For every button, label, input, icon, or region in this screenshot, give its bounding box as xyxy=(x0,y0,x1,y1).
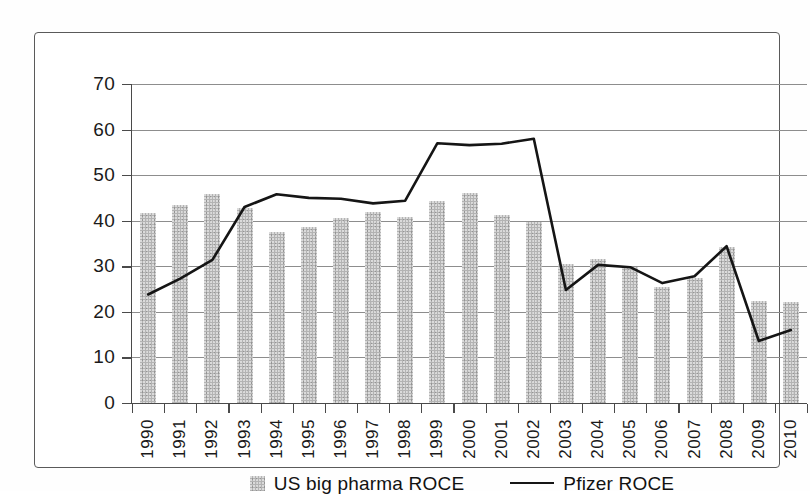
y-tick-label-0: 0 xyxy=(63,393,115,412)
x-axis-label-1996: 1996 xyxy=(332,419,349,459)
y-tick-mark-70 xyxy=(122,84,131,85)
x-tick-mark-2 xyxy=(196,404,197,413)
x-axis-label-1998: 1998 xyxy=(396,419,413,459)
x-axis-label-1994: 1994 xyxy=(268,419,285,459)
x-axis-label-2006: 2006 xyxy=(653,419,670,459)
pfizer-roce-polyline xyxy=(148,139,791,341)
x-tick-mark-0 xyxy=(132,404,133,413)
plot-area xyxy=(132,84,807,403)
x-tick-mark-1 xyxy=(164,404,165,413)
x-tick-mark-5 xyxy=(293,404,294,413)
x-tick-mark-15 xyxy=(614,404,615,413)
x-tick-mark-12 xyxy=(518,404,519,413)
chart-frame: 010203040506070 199019911992199319941995… xyxy=(34,32,780,468)
legend-item-us-big-pharma-roce: US big pharma ROCE xyxy=(250,474,465,493)
x-tick-mark-20 xyxy=(775,404,776,413)
y-tick-mark-10 xyxy=(122,357,131,358)
y-tick-label-text: 60 xyxy=(69,120,115,139)
x-tick-mark-3 xyxy=(228,404,229,413)
x-axis-label-1993: 1993 xyxy=(236,419,253,459)
x-tick-mark-11 xyxy=(486,404,487,413)
x-axis-label-2002: 2002 xyxy=(525,419,542,459)
x-axis-label-2004: 2004 xyxy=(589,419,606,459)
x-axis-label-1992: 1992 xyxy=(203,419,220,459)
x-tick-mark-14 xyxy=(582,404,583,413)
x-axis-label-2008: 2008 xyxy=(718,419,735,459)
x-axis-label-1999: 1999 xyxy=(428,419,445,459)
x-tick-mark-13 xyxy=(550,404,551,413)
line-series-pfizer-roce xyxy=(132,84,807,403)
x-axis-label-2000: 2000 xyxy=(461,419,478,459)
legend-item-pfizer-roce: Pfizer ROCE xyxy=(510,474,674,493)
x-tick-mark-7 xyxy=(357,404,358,413)
gridline-0 xyxy=(132,403,807,404)
y-tick-label-50: 50 xyxy=(63,165,115,184)
x-axis-label-2003: 2003 xyxy=(557,419,574,459)
chart-legend: US big pharma ROCE Pfizer ROCE xyxy=(132,470,792,496)
y-tick-mark-20 xyxy=(122,312,131,313)
bar-swatch-icon xyxy=(250,476,265,491)
legend-label-pfizer-roce: Pfizer ROCE xyxy=(563,474,674,493)
x-axis-label-1991: 1991 xyxy=(171,419,188,459)
y-tick-label-40: 40 xyxy=(63,211,115,230)
x-tick-mark-10 xyxy=(453,404,454,413)
y-tick-mark-30 xyxy=(122,266,131,267)
x-tick-mark-17 xyxy=(678,404,679,413)
y-tick-label-text: 20 xyxy=(69,302,115,321)
x-tick-mark-4 xyxy=(261,404,262,413)
y-tick-label-30: 30 xyxy=(63,256,115,275)
x-axis-label-1997: 1997 xyxy=(364,419,381,459)
y-tick-label-text: 30 xyxy=(69,256,115,275)
x-tick-mark-9 xyxy=(421,404,422,413)
x-tick-mark-19 xyxy=(743,404,744,413)
x-axis-label-2007: 2007 xyxy=(686,419,703,459)
x-axis-label-1990: 1990 xyxy=(139,419,156,459)
x-axis-label-2009: 2009 xyxy=(750,419,767,459)
y-tick-label-60: 60 xyxy=(63,120,115,139)
y-tick-label-70: 70 xyxy=(63,74,115,93)
x-axis-label-2001: 2001 xyxy=(493,419,510,459)
y-tick-label-20: 20 xyxy=(63,302,115,321)
x-tick-mark-21 xyxy=(807,404,808,413)
y-tick-label-text: 50 xyxy=(69,165,115,184)
x-tick-mark-6 xyxy=(325,404,326,413)
y-tick-mark-40 xyxy=(122,221,131,222)
y-tick-label-10: 10 xyxy=(63,347,115,366)
x-tick-mark-16 xyxy=(646,404,647,413)
y-tick-mark-50 xyxy=(122,175,131,176)
legend-label-us-big-pharma-roce: US big pharma ROCE xyxy=(274,474,465,493)
x-axis-label-2005: 2005 xyxy=(621,419,638,459)
x-axis-label-1995: 1995 xyxy=(300,419,317,459)
y-tick-label-text: 0 xyxy=(69,393,115,412)
y-tick-label-text: 70 xyxy=(69,74,115,93)
y-tick-label-text: 10 xyxy=(69,347,115,366)
x-axis-label-2010: 2010 xyxy=(782,419,799,459)
y-tick-mark-60 xyxy=(122,130,131,131)
x-tick-mark-8 xyxy=(389,404,390,413)
y-tick-mark-0 xyxy=(122,403,131,404)
line-swatch-icon xyxy=(510,482,554,484)
y-tick-label-text: 40 xyxy=(69,211,115,230)
x-tick-mark-18 xyxy=(711,404,712,413)
